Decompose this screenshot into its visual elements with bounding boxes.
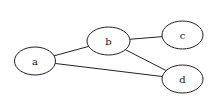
node-d: d — [162, 65, 203, 93]
node-c: c — [162, 21, 203, 49]
node-label: a — [32, 56, 38, 67]
edge-b-c — [130, 37, 162, 40]
edge-b-d — [125, 50, 166, 71]
nodes-group: abcd — [15, 21, 204, 93]
edge-a-d — [55, 63, 162, 76]
node-b: b — [87, 27, 130, 55]
node-a: a — [15, 47, 56, 75]
edge-a-b — [54, 46, 89, 55]
graph-diagram: abcd — [0, 0, 213, 106]
node-label: b — [105, 36, 111, 47]
node-label: d — [179, 74, 186, 85]
node-label: c — [180, 30, 186, 41]
